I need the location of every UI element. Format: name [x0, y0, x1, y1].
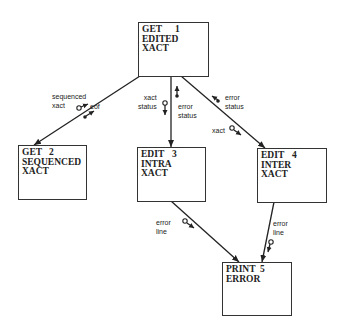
- couple-label: xact: [212, 126, 225, 135]
- data-couple-icon: [163, 101, 167, 115]
- control-couple-icon: [175, 86, 179, 98]
- module-name-line: XACT: [141, 169, 202, 179]
- couple-label: error line: [273, 219, 288, 237]
- control-couple-icon: [212, 96, 220, 103]
- module-name-line: ERROR: [226, 275, 288, 285]
- module-number: 4: [292, 151, 297, 161]
- module-number: 3: [172, 150, 177, 160]
- couple-label: xact status: [138, 93, 157, 111]
- module-name-line: XACT: [22, 167, 83, 177]
- call-line-1-2: [34, 76, 140, 145]
- module-number: 1: [175, 25, 180, 35]
- data-couple-icon: [230, 126, 241, 135]
- couple-label: error line: [156, 218, 171, 236]
- structure-chart: GET EDITED XACT 1 GET SEQUENCED XACT 2 E…: [0, 0, 344, 330]
- module-edit-intra-xact[interactable]: EDIT INTRA XACT 3: [137, 147, 206, 202]
- module-print-error[interactable]: PRINT ERROR 5: [222, 262, 292, 316]
- call-line-3-5: [171, 201, 239, 262]
- module-number: 5: [260, 265, 265, 275]
- module-get-edited-xact[interactable]: GET EDITED XACT 1: [138, 22, 209, 77]
- couple-label: eof: [90, 102, 100, 111]
- module-name-line: XACT: [261, 170, 323, 180]
- module-edit-inter-xact[interactable]: EDIT INTER XACT 4: [257, 148, 327, 203]
- couple-label: error status: [225, 93, 244, 111]
- module-number: 2: [49, 148, 54, 158]
- module-get-sequenced-xact[interactable]: GET SEQUENCED XACT 2: [18, 145, 87, 200]
- couple-label: sequenced xact: [52, 92, 86, 110]
- data-couple-icon: [268, 240, 273, 252]
- couple-label: error status: [178, 102, 197, 120]
- module-name-line: XACT: [142, 44, 205, 54]
